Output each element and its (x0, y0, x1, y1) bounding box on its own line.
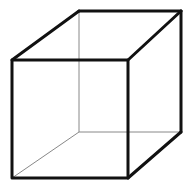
cube-diagram (0, 0, 191, 187)
